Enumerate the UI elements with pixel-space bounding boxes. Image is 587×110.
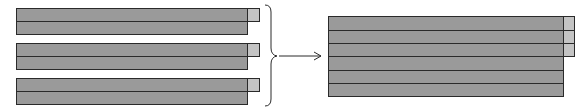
merged-row-6 [328, 83, 564, 97]
merged-row-4 [328, 56, 564, 71]
merged-row-5 [328, 70, 564, 84]
merged-square-3 [563, 43, 575, 57]
merged-row-2 [328, 30, 564, 44]
merged-row-3 [328, 43, 564, 57]
merged-square-1 [563, 16, 575, 31]
curly-brace-icon [265, 5, 277, 106]
merged-square-2 [563, 30, 575, 44]
merged-row-1 [328, 16, 564, 31]
